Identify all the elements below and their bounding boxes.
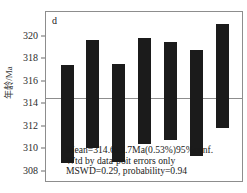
y-tick-label: 308 <box>23 166 38 176</box>
chart-figure: 年龄/Ma 308310312314316318320 d Mean=314.6… <box>0 0 247 193</box>
y-tick-label: 316 <box>23 76 38 86</box>
data-bar <box>86 40 99 148</box>
annotation-line: MSWD=0.29, probability=0.94 <box>66 166 213 177</box>
data-bar <box>190 50 203 156</box>
y-tick-label: 314 <box>23 98 38 108</box>
plot-inner: d Mean=314.6±1.7Ma(0.53%)95%conf.Wtd by … <box>46 12 242 181</box>
panel-label: d <box>52 15 57 26</box>
y-tick-label: 310 <box>23 143 38 153</box>
data-bar <box>164 42 177 140</box>
plot-area: d Mean=314.6±1.7Ma(0.53%)95%conf.Wtd by … <box>45 11 243 182</box>
statistics-annotation: Mean=314.6±1.7Ma(0.53%)95%conf.Wtd by da… <box>66 145 213 177</box>
data-bar <box>216 24 229 128</box>
y-axis-tick-labels: 308310312314316318320 <box>0 0 41 193</box>
data-bar <box>138 38 151 144</box>
y-tick-label: 320 <box>23 31 38 41</box>
y-tick-label: 318 <box>23 53 38 63</box>
y-tick-label: 312 <box>23 121 38 131</box>
